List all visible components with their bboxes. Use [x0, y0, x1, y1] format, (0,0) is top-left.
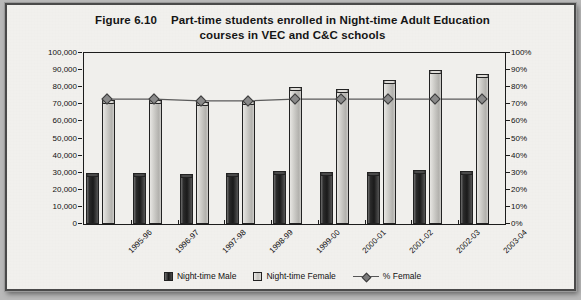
y-tick-label-left: 90,000 — [53, 65, 77, 74]
y-tick-right — [506, 206, 510, 207]
y-tick-left — [78, 69, 82, 70]
y-tick-label-left: 80,000 — [53, 82, 77, 91]
figure-number: Figure 6.10 — [95, 14, 157, 26]
y-tick-label-right: 70% — [511, 99, 527, 108]
x-axis-label: 2001-02 — [408, 228, 435, 255]
y-tick-left — [78, 155, 82, 156]
y-tick-label-right: 10% — [511, 201, 527, 210]
legend-swatch-female-icon — [253, 272, 262, 281]
screenshot-root: Figure 6.10Part-time students enrolled i… — [0, 0, 581, 300]
bar-group — [224, 53, 271, 224]
y-tick-label-left: 50,000 — [53, 133, 77, 142]
bar-male — [413, 170, 426, 224]
bar-cap — [180, 174, 193, 178]
bar-cap — [413, 170, 426, 174]
legend-swatch-male-icon — [164, 272, 173, 281]
y-tick-label-right: 30% — [511, 167, 527, 176]
bar-male — [273, 171, 286, 224]
legend-line-marker-icon — [353, 272, 379, 281]
title-text-1: Part-time students enrolled in Night-tim… — [171, 14, 490, 26]
y-tick-label-left: 0 — [73, 219, 77, 228]
y-tick-label-right: 0% — [511, 219, 523, 228]
y-tick-left — [78, 120, 82, 121]
bar-male — [226, 173, 239, 224]
y-tick-right — [506, 86, 510, 87]
bar-cap — [86, 173, 99, 177]
y-tick-left — [78, 103, 82, 104]
x-axis-label: 1999-00 — [314, 228, 341, 255]
y-tick-left — [78, 206, 82, 207]
bar-cap — [320, 172, 333, 176]
y-tick-right — [506, 155, 510, 156]
bar-female — [289, 87, 302, 224]
bar-female — [102, 100, 115, 224]
bar-cap — [429, 70, 442, 74]
y-tick-right — [506, 138, 510, 139]
y-tick-label-right: 100% — [511, 48, 531, 57]
legend-item-male: Night-time Male — [164, 271, 237, 281]
y-tick-left — [78, 172, 82, 173]
y-tick-label-left: 20,000 — [53, 184, 77, 193]
y-tick-label-left: 100,000 — [48, 48, 77, 57]
y-tick-right — [506, 103, 510, 104]
x-axis-label: 1995-96 — [127, 228, 154, 255]
y-tick-label-right: 90% — [511, 65, 527, 74]
figure-frame: Figure 6.10Part-time students enrolled i… — [5, 3, 576, 291]
y-tick-label-right: 20% — [511, 184, 527, 193]
x-axis-label: 1996-97 — [174, 228, 201, 255]
bar-group — [178, 53, 225, 224]
y-tick-label-right: 80% — [511, 82, 527, 91]
x-axis-label: 2002-03 — [454, 228, 481, 255]
y-tick-label-left: 30,000 — [53, 167, 77, 176]
bar-group — [365, 53, 412, 224]
legend-item-female: Night-time Female — [253, 271, 335, 281]
x-axis-label: 1997-98 — [221, 228, 248, 255]
title-line-2: courses in VEC and C&C schools — [7, 28, 578, 43]
y-tick-label-left: 40,000 — [53, 150, 77, 159]
y-tick-left — [78, 138, 82, 139]
bar-female — [242, 101, 255, 224]
bar-female — [196, 102, 209, 224]
plot-area — [83, 52, 506, 225]
x-axis-label: 1998-99 — [267, 228, 294, 255]
y-tick-right — [506, 52, 510, 53]
y-tick-label-left: 60,000 — [53, 116, 77, 125]
bar-male — [86, 173, 99, 224]
legend-label-female: Night-time Female — [266, 271, 335, 281]
y-tick-right — [506, 69, 510, 70]
bar-male — [367, 172, 380, 224]
bar-cap — [226, 173, 239, 177]
bar-female — [149, 100, 162, 224]
y-tick-right — [506, 189, 510, 190]
y-tick-label-right: 50% — [511, 133, 527, 142]
y-tick-left — [78, 223, 82, 224]
bar-female — [429, 70, 442, 224]
y-axis-left: 010,00020,00030,00040,00050,00060,00070,… — [25, 52, 77, 225]
bar-group — [458, 53, 505, 224]
legend-label-percent: % Female — [383, 271, 421, 281]
legend-label-male: Night-time Male — [177, 271, 237, 281]
y-tick-left — [78, 52, 82, 53]
y-tick-label-left: 10,000 — [53, 201, 77, 210]
y-tick-label-right: 60% — [511, 116, 527, 125]
x-axis-label: 2003-04 — [501, 228, 528, 255]
bar-cap — [133, 173, 146, 177]
figure-title: Figure 6.10Part-time students enrolled i… — [7, 13, 578, 43]
y-tick-left — [78, 189, 82, 190]
bar-cap — [336, 89, 349, 93]
legend-item-percent: % Female — [353, 271, 421, 281]
bar-cap — [460, 171, 473, 175]
bar-group — [84, 53, 131, 224]
y-tick-right — [506, 172, 510, 173]
bar-group — [411, 53, 458, 224]
y-axis-right: 0%10%20%30%40%50%60%70%80%90%100% — [511, 52, 551, 225]
bar-male — [460, 171, 473, 224]
bar-cap — [289, 87, 302, 91]
y-tick-label-left: 70,000 — [53, 99, 77, 108]
bar-male — [180, 174, 193, 224]
bar-group — [318, 53, 365, 224]
bar-cap — [383, 80, 396, 84]
bar-group — [271, 53, 318, 224]
bar-male — [133, 173, 146, 224]
title-line-1: Figure 6.10Part-time students enrolled i… — [7, 13, 578, 28]
